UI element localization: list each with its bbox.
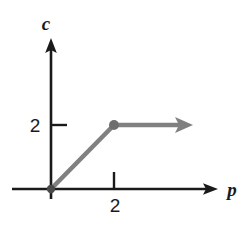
data-point-marker-origin <box>47 185 55 193</box>
y-axis-tick-label-2: 2 <box>30 115 41 136</box>
x-axis-tick-label-2: 2 <box>110 195 121 216</box>
data-point-marker-kink <box>109 120 119 130</box>
figure-container: c p 2 2 <box>0 0 251 235</box>
y-axis-label: c <box>42 13 51 34</box>
x-axis-label: p <box>225 179 237 200</box>
plot-canvas: c p 2 2 <box>0 0 251 235</box>
